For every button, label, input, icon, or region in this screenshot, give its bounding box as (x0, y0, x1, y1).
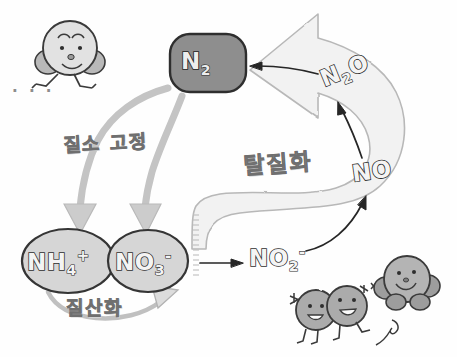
ellipsis-decoration: · · · (12, 82, 55, 100)
mascot-round (374, 256, 440, 345)
node-label-no2: NO2- (249, 243, 306, 274)
process-label-fixation: 질소 고정 (62, 126, 148, 157)
process-label-denitrification: 탈질화 (242, 143, 313, 182)
process-label-nitrification: 질산화 (66, 293, 123, 320)
node-label-n2: N2 (181, 48, 211, 78)
mascot-runner (32, 21, 105, 88)
node-label-no3: NO3- (115, 247, 172, 278)
mascot-pair (290, 283, 376, 344)
node-label-nh4: NH4+ (27, 247, 90, 278)
nitrogen-cycle-diagram: N2 NH4+ NO3- NO2- NO N2O 질소 고정 질산화 탈질화 ·… (0, 0, 457, 357)
node-label-no: NO (350, 155, 393, 186)
